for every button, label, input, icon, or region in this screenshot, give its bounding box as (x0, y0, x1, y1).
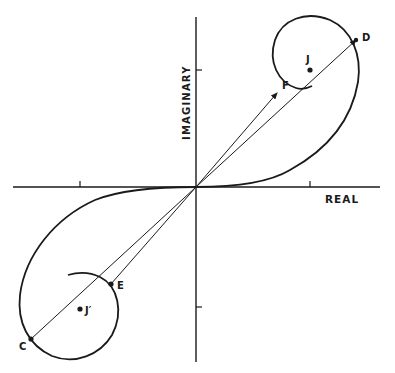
point-D (354, 38, 358, 42)
vector-to-F (196, 93, 277, 187)
spiral-curve-upper (196, 16, 359, 187)
label-C: C (19, 341, 26, 352)
complex-plane-figure: REAL IMAGINARY D F J C E J′ (0, 0, 395, 373)
point-E (108, 281, 113, 286)
vector-to-C (31, 187, 196, 339)
real-axis-label: REAL (325, 193, 359, 205)
point-J (307, 67, 312, 72)
imaginary-axis-label: IMAGINARY (181, 65, 192, 140)
vector-to-D (196, 40, 356, 187)
point-C (28, 336, 33, 341)
label-J-prime: J′ (84, 305, 92, 316)
point-J-prime (77, 306, 82, 311)
label-F: F (282, 80, 289, 91)
label-D: D (362, 32, 370, 43)
label-J: J (305, 54, 310, 65)
vector-to-E (111, 187, 196, 284)
spiral-curve-lower (20, 187, 196, 359)
label-E: E (117, 280, 124, 291)
